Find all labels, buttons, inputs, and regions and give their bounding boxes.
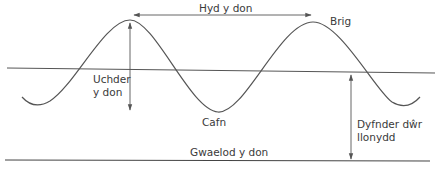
wavelength-label: Hyd y don xyxy=(199,2,252,14)
depth-label-line1: Dyfnder dŵr xyxy=(357,118,422,130)
depth-label-line2: llonydd xyxy=(357,131,395,143)
still-water-line xyxy=(7,68,435,73)
trough-label: Cafn xyxy=(202,116,226,128)
wave-height-label-line1: Uchder xyxy=(93,73,131,85)
crest-label: Brig xyxy=(330,15,351,27)
wave-height-label-line2: y don xyxy=(93,86,122,98)
wave-curve xyxy=(22,20,420,112)
wave-base-line xyxy=(5,160,430,161)
wave-base-label: Gwaelod y don xyxy=(190,146,268,158)
